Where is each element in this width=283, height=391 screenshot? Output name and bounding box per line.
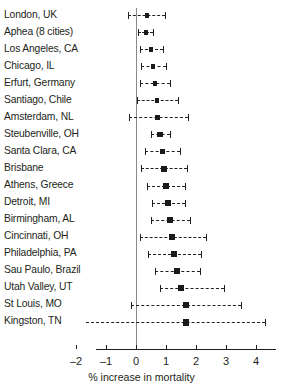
confidence-interval-cap [148, 251, 149, 258]
data-point-marker [174, 268, 180, 274]
x-axis-tick [106, 345, 107, 349]
data-point-marker [163, 183, 168, 188]
data-point-marker [161, 166, 166, 171]
confidence-interval-line [86, 322, 265, 324]
confidence-interval-line [160, 288, 224, 290]
x-axis-title: % increase in mortality [0, 371, 283, 383]
confidence-interval-cap [163, 46, 164, 53]
data-point-marker [165, 200, 171, 206]
x-tick-label: 3 [211, 355, 241, 367]
confidence-interval-cap [170, 80, 171, 87]
forest-plot-figure: London, UKAphea (8 cities)Los Angeles, C… [0, 0, 283, 391]
x-axis-tick [226, 345, 227, 349]
confidence-interval-cap [160, 285, 161, 292]
x-axis-tick [256, 345, 257, 349]
confidence-interval-cap [147, 183, 148, 190]
confidence-interval-cap [180, 148, 181, 155]
x-axis-tick [166, 345, 167, 349]
confidence-interval-cap [190, 217, 191, 224]
confidence-interval-cap [165, 12, 166, 19]
confidence-interval-cap [129, 114, 130, 121]
confidence-interval-cap [185, 183, 186, 190]
data-point-marker [157, 132, 162, 137]
data-point-marker [155, 115, 160, 120]
confidence-interval-cap [155, 268, 156, 275]
confidence-interval-cap [137, 97, 138, 104]
confidence-interval-cap [151, 131, 152, 138]
data-point-marker [169, 234, 175, 240]
data-point-marker [155, 98, 160, 103]
x-axis-tick [196, 345, 197, 349]
data-point-marker [149, 47, 153, 51]
confidence-interval-cap [128, 12, 129, 19]
data-point-marker [167, 217, 173, 223]
confidence-interval-cap [170, 131, 171, 138]
confidence-interval-cap [131, 302, 132, 309]
x-axis-line [96, 349, 276, 350]
plot-area [0, 0, 283, 345]
confidence-interval-cap [201, 251, 202, 258]
confidence-interval-cap [138, 29, 139, 36]
confidence-interval-cap [140, 234, 141, 241]
x-tick-label: –1 [91, 355, 121, 367]
confidence-interval-cap [178, 97, 179, 104]
x-axis-tick [76, 345, 77, 349]
reference-line-zero [136, 8, 137, 345]
x-tick-label: –2 [61, 355, 91, 367]
confidence-interval-cap [187, 165, 188, 172]
data-point-marker [144, 30, 148, 34]
confidence-interval-cap [141, 63, 142, 70]
confidence-interval-cap [241, 302, 242, 309]
x-tick-label: 1 [151, 355, 181, 367]
confidence-interval-cap [153, 29, 154, 36]
confidence-interval-cap [200, 268, 201, 275]
confidence-interval-cap [145, 148, 146, 155]
data-point-marker [160, 149, 165, 154]
x-axis-tick [136, 345, 137, 349]
confidence-interval-cap [185, 200, 186, 207]
data-point-marker [183, 319, 189, 325]
x-tick-label: 4 [241, 355, 271, 367]
data-point-marker [145, 13, 149, 17]
confidence-interval-cap [265, 319, 266, 326]
data-point-marker [151, 64, 156, 69]
data-point-marker [183, 302, 189, 308]
data-point-marker [153, 81, 158, 86]
confidence-interval-cap [224, 285, 225, 292]
confidence-interval-cap [166, 63, 167, 70]
confidence-interval-cap [140, 46, 141, 53]
confidence-interval-cap [188, 114, 189, 121]
data-point-marker [178, 285, 184, 291]
confidence-interval-cap [151, 217, 152, 224]
data-point-marker [171, 251, 177, 257]
confidence-interval-cap [152, 200, 153, 207]
x-tick-label: 0 [121, 355, 151, 367]
confidence-interval-cap [141, 165, 142, 172]
confidence-interval-cap [206, 234, 207, 241]
confidence-interval-cap [140, 80, 141, 87]
x-tick-label: 2 [181, 355, 211, 367]
